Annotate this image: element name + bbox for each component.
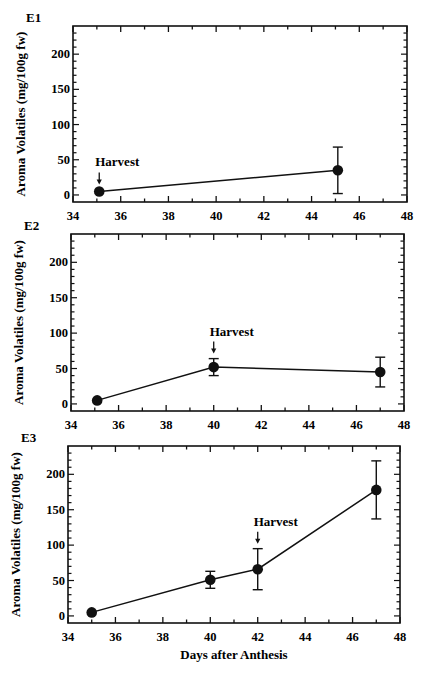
x-tick-label: 48	[398, 418, 411, 432]
x-tick-label: 34	[67, 209, 80, 223]
data-point	[92, 395, 103, 406]
x-tick-label: 42	[251, 630, 264, 644]
chart-panel-e2: E23436384042444648050100150200Aroma Vola…	[11, 218, 410, 432]
y-axis-title: Aroma Volatiles (mg/100g fw)	[11, 240, 26, 405]
x-tick-label: 38	[157, 630, 170, 644]
x-tick-label: 40	[207, 418, 220, 432]
chart-panel-e1: E13436384042444648050100150200Aroma Vola…	[13, 10, 413, 223]
x-tick-label: 42	[255, 418, 268, 432]
data-point	[86, 607, 97, 618]
x-tick-label: 48	[401, 209, 414, 223]
x-tick-label: 36	[114, 209, 127, 223]
y-tick-label: 100	[49, 326, 68, 340]
harvest-label: Harvest	[210, 324, 255, 339]
series-line	[92, 490, 377, 612]
chart-panel-e3: E33436384042444648050100150200Aroma Vola…	[8, 430, 406, 662]
x-tick-label: 38	[162, 209, 175, 223]
y-tick-label: 200	[46, 467, 65, 481]
data-point	[205, 575, 216, 586]
x-tick-label: 46	[350, 418, 363, 432]
series-line	[99, 170, 338, 191]
figure: E13436384042444648050100150200Aroma Vola…	[0, 0, 423, 677]
y-tick-label: 100	[46, 538, 65, 552]
x-axis-title: Days after Anthesis	[180, 647, 287, 662]
x-tick-label: 38	[160, 418, 173, 432]
y-tick-label: 50	[56, 362, 69, 376]
data-point	[208, 362, 219, 373]
y-tick-label: 150	[46, 503, 65, 517]
harvest-label: Harvest	[95, 154, 140, 169]
x-tick-label: 34	[65, 418, 78, 432]
panel-label: E2	[24, 218, 39, 233]
y-tick-label: 0	[64, 188, 70, 202]
harvest-arrow-icon	[97, 179, 102, 184]
panel-label: E1	[26, 10, 41, 25]
data-point	[252, 564, 263, 575]
data-point	[333, 165, 344, 176]
x-tick-label: 42	[258, 209, 271, 223]
harvest-label: Harvest	[254, 514, 299, 529]
x-tick-label: 36	[109, 630, 122, 644]
plot-frame	[73, 26, 407, 202]
x-tick-label: 48	[394, 630, 407, 644]
series-line	[97, 367, 380, 400]
x-tick-label: 40	[210, 209, 223, 223]
data-point	[375, 367, 386, 378]
x-tick-label: 44	[299, 630, 312, 644]
y-tick-label: 0	[59, 609, 65, 623]
y-axis-title: Aroma Volatiles (mg/100g fw)	[8, 452, 23, 617]
x-tick-label: 44	[303, 418, 316, 432]
x-tick-label: 40	[204, 630, 217, 644]
harvest-arrow-icon	[211, 349, 216, 354]
y-tick-label: 0	[62, 397, 68, 411]
y-tick-label: 200	[49, 255, 68, 269]
y-tick-label: 50	[58, 153, 71, 167]
y-axis-title: Aroma Volatiles (mg/100g fw)	[13, 32, 28, 197]
data-point	[371, 485, 382, 496]
x-tick-label: 36	[112, 418, 125, 432]
y-tick-label: 150	[51, 82, 70, 96]
data-point	[94, 186, 105, 197]
plot-frame	[71, 234, 404, 411]
panel-label: E3	[21, 430, 37, 445]
y-tick-label: 150	[49, 291, 68, 305]
y-tick-label: 200	[51, 47, 70, 61]
harvest-arrow-icon	[255, 539, 260, 544]
y-tick-label: 100	[51, 118, 70, 132]
x-tick-label: 44	[305, 209, 318, 223]
plot-frame	[68, 446, 400, 623]
x-tick-label: 34	[62, 630, 75, 644]
x-tick-label: 46	[353, 209, 366, 223]
x-tick-label: 46	[346, 630, 359, 644]
y-tick-label: 50	[53, 574, 66, 588]
